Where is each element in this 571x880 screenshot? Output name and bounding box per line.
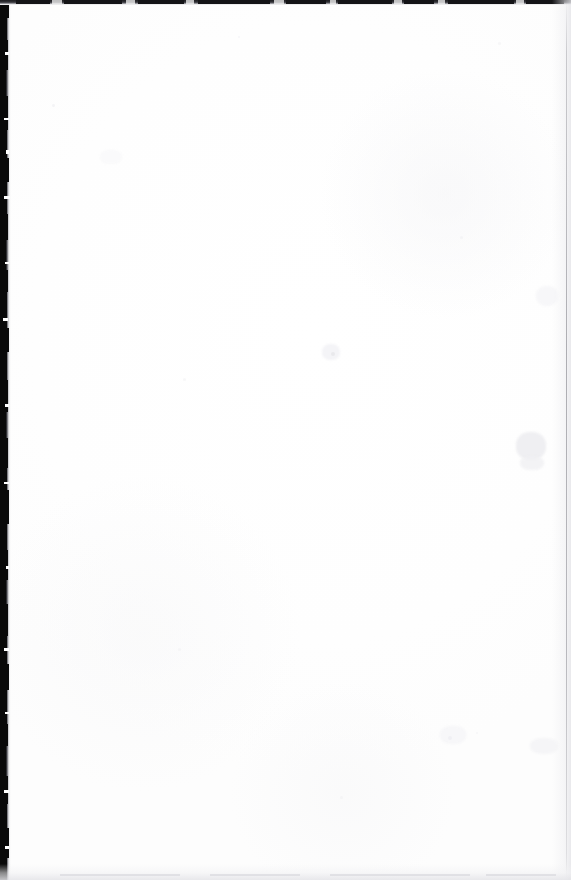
page-content-area [12, 6, 565, 874]
scanned-page [0, 0, 571, 880]
